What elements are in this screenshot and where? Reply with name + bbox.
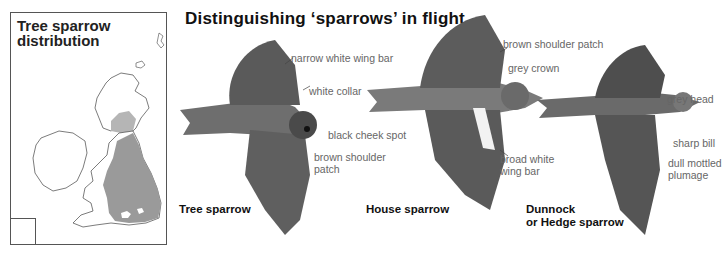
label-brown-shoulder-patch: brown shoulder patch: [503, 38, 603, 50]
label-black-cheek-spot: black cheek spot: [328, 129, 406, 141]
species-dunnock-line1: Dunnock: [526, 203, 624, 216]
label-dull-mottled: dull mottled: [668, 157, 722, 169]
species-tree-sparrow: Tree sparrow: [179, 203, 251, 216]
label-sharp-bill: sharp bill: [673, 137, 715, 149]
label-wing-bar: wing bar: [500, 165, 540, 177]
species-dunnock: Dunnock or Hedge sparrow: [526, 203, 624, 229]
species-house-sparrow: House sparrow: [366, 203, 449, 216]
label-brown-shoulder: brown shoulder: [314, 151, 386, 163]
label-plumage: plumage: [668, 169, 708, 181]
label-white-collar: white collar: [309, 85, 362, 97]
label-narrow-white-wing-bar: narrow white wing bar: [291, 52, 393, 64]
label-broad-white: broad white: [500, 153, 554, 165]
label-grey-head: grey head: [667, 93, 714, 105]
label-patch: patch: [314, 163, 340, 175]
species-dunnock-line2: or Hedge sparrow: [526, 216, 624, 229]
label-grey-crown: grey crown: [508, 62, 559, 74]
